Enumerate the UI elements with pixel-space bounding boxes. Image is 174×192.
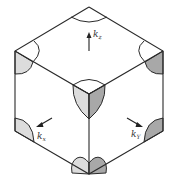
kz-arrow-icon [87,32,92,51]
cube-diagram: kz kx kY [0,0,174,192]
kz-label: kz [93,29,102,40]
corner-cap-bottom-left [15,118,34,142]
ky-label: kY [131,129,141,140]
kx-arrow-icon [36,118,52,127]
kx-label: kx [37,131,46,142]
corner-cap-top [71,17,107,22]
ky-arrow-icon [127,118,143,127]
corner-cap-bottom-right [144,118,163,142]
